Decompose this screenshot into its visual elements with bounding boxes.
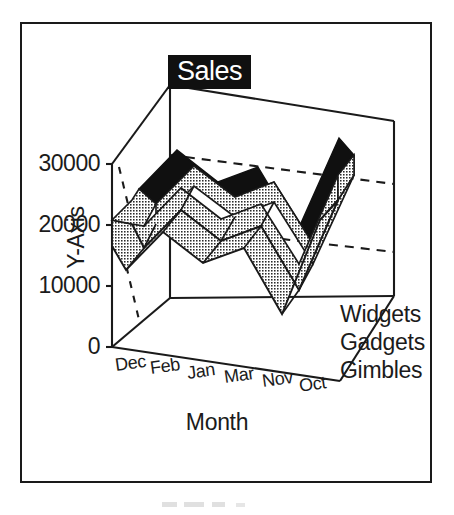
chart-frame: Sales 30000 20000 10000 0 Y-Axis Dec Feb…: [20, 22, 432, 483]
y-axis-title: Y-Axis: [63, 178, 90, 298]
y-tick-label-0: 0: [10, 335, 100, 358]
x-tick-label-mar: Mar: [223, 364, 255, 386]
chart-title-plate: Sales: [168, 55, 251, 89]
series-label-gimbles: Gimbles: [340, 359, 422, 382]
x-tick-label-jan: Jan: [186, 360, 216, 382]
x-tick-label-dec: Dec: [114, 352, 147, 374]
x-tick-label-oct: Oct: [298, 373, 327, 395]
x-tick-label-feb: Feb: [149, 355, 181, 377]
series-label-gadgets: Gadgets: [340, 331, 425, 354]
y-tick-label-30000: 30000: [10, 152, 100, 175]
x-tick-label-nov: Nov: [261, 368, 294, 390]
scan-artifact: [160, 500, 280, 509]
series-label-widgets: Widgets: [340, 303, 421, 326]
x-axis-title: Month: [122, 409, 312, 436]
chart-title: Sales: [177, 57, 242, 85]
screenshot-root: Sales 30000 20000 10000 0 Y-Axis Dec Feb…: [0, 0, 454, 515]
